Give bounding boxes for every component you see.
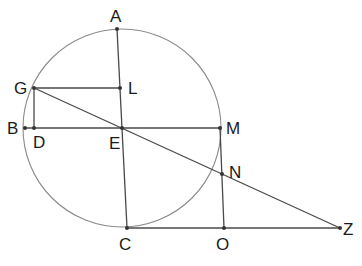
label-e: E [109,134,120,153]
label-m: M [226,119,240,138]
diagram-shapes [23,27,342,230]
segment-gz [34,88,340,228]
point-d [32,126,36,130]
point-a [115,27,119,31]
point-l [118,86,122,90]
label-o: O [216,235,229,254]
diagram-labels: ALGBDEMNCOZ [7,7,353,254]
label-a: A [110,7,122,26]
segment-mo [220,128,224,228]
label-g: G [14,79,27,98]
label-n: N [229,163,241,182]
point-z [338,226,342,230]
point-c [125,226,129,230]
label-z: Z [343,220,353,239]
label-c: C [119,235,131,254]
label-d: D [33,133,45,152]
geometry-diagram: ALGBDEMNCOZ [0,0,362,266]
label-l: L [128,79,137,98]
point-b [23,126,27,130]
point-n [220,172,224,176]
label-b: B [7,119,18,138]
point-e [120,126,124,130]
point-o [222,226,226,230]
point-g [32,86,36,90]
point-m [218,126,222,130]
